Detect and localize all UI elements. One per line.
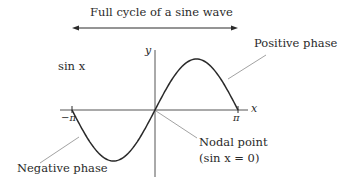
positive-phase-leader xyxy=(228,55,266,79)
diagram-title: Full cycle of a sine wave xyxy=(90,7,233,19)
full-cycle-arrow xyxy=(72,26,238,31)
negative-phase-leader xyxy=(40,137,79,163)
nodal-point-label: Nodal point xyxy=(199,137,268,149)
arrow-right-head-icon xyxy=(231,26,238,31)
nodal-condition-label: (sin x = 0) xyxy=(199,153,259,165)
tick-label-neg-pi: −π xyxy=(61,113,76,123)
positive-phase-label: Positive phase xyxy=(254,38,337,50)
sine-wave-diagram: Full cycle of a sine wave sin x y x −π π… xyxy=(0,0,351,187)
function-label-text: sin x xyxy=(58,59,85,73)
y-axis-label: y xyxy=(145,45,151,56)
diagram-canvas xyxy=(0,0,351,187)
x-axis-label: x xyxy=(251,103,257,114)
nodal-point-leader xyxy=(156,111,197,138)
arrow-left-head-icon xyxy=(72,26,79,31)
function-label: sin x xyxy=(58,61,85,73)
negative-phase-label: Negative phase xyxy=(17,163,108,175)
tick-label-pi: π xyxy=(233,113,240,123)
